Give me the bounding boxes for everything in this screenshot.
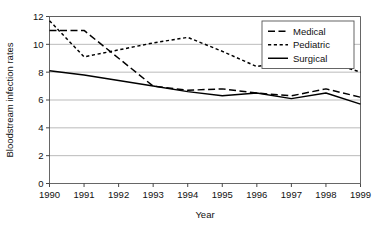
- x-tick-label-1997: 1997: [281, 189, 302, 200]
- y-tick-label-4: 4: [38, 122, 43, 133]
- y-axis-title: Bloodstream infection rates: [4, 42, 15, 157]
- x-axis-title: Year: [195, 209, 214, 220]
- y-tick-label-6: 6: [38, 94, 43, 105]
- y-tick-label-8: 8: [38, 67, 43, 78]
- x-tick-label-1996: 1996: [246, 189, 267, 200]
- bloodstream-infection-rates-line-chart: 024681012 199019911992199319941995199619…: [0, 0, 376, 227]
- x-tick-label-1991: 1991: [73, 189, 94, 200]
- x-tick-label-1995: 1995: [212, 189, 233, 200]
- y-tick-label-2: 2: [38, 150, 43, 161]
- x-tick-label-1993: 1993: [143, 189, 164, 200]
- x-tick-label-1998: 1998: [315, 189, 336, 200]
- x-tick-label-1990: 1990: [39, 189, 60, 200]
- legend-label-medical: Medical: [293, 26, 326, 37]
- x-tick-label-1992: 1992: [108, 189, 129, 200]
- y-tick-label-0: 0: [38, 178, 43, 189]
- legend-label-pediatric: Pediatric: [293, 39, 330, 50]
- y-tick-label-12: 12: [33, 11, 44, 22]
- legend: MedicalPediatricSurgical: [262, 21, 354, 69]
- x-tick-label-1999: 1999: [350, 189, 371, 200]
- y-tick-label-10: 10: [33, 39, 44, 50]
- chart-figure: 024681012 199019911992199319941995199619…: [0, 0, 376, 227]
- x-tick-label-1994: 1994: [177, 189, 198, 200]
- legend-label-surgical: Surgical: [293, 53, 327, 64]
